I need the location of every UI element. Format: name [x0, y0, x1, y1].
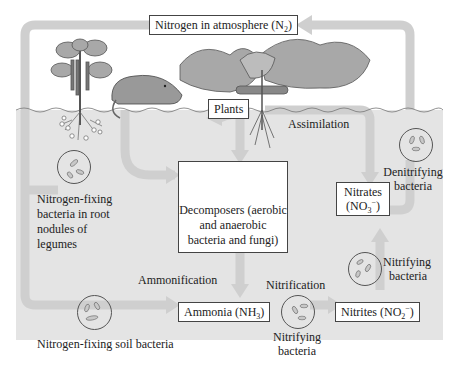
nitrates-box: Nitrates (NO3−): [336, 182, 390, 216]
nitrates-formula: (NO: [346, 199, 367, 213]
atmosphere-suffix: ): [288, 18, 292, 32]
nitrifying-bacteria-bubble-bottom: [281, 295, 315, 329]
denitrifying-bacteria-bubble: [399, 128, 433, 162]
legume-bacteria-bubble: [57, 150, 91, 184]
decomposers-line-3: bacteria and fungi): [179, 233, 287, 248]
ammonia-box: Ammonia (NH3): [178, 302, 270, 322]
ammonification-label: Ammonification: [138, 273, 217, 287]
ammonia-suffix: ): [260, 305, 264, 319]
nitrites-box: Nitrites (NO2−): [335, 302, 420, 322]
nitrifying-bacteria-bubble-right: [348, 252, 382, 286]
nitrifying-bottom-label: Nitrifying bacteria: [268, 330, 326, 358]
denitrifying-line-2: bacteria: [381, 179, 445, 193]
atmosphere-text: Nitrogen in atmosphere (N: [155, 18, 284, 32]
nitrates-subscript: 3: [367, 206, 371, 215]
plants-text: Plants: [214, 102, 243, 116]
nitrogen-cycle-diagram: Nitrogen in atmosphere (N2) Plants Assim…: [0, 0, 454, 372]
nitrites-subscript: 2: [401, 312, 405, 321]
nitrates-line-1: Nitrates: [342, 185, 384, 199]
ammonia-text: Ammonia (NH: [184, 305, 256, 319]
legume-line-3: nodules of: [37, 222, 112, 237]
animal-to-decomposer-arrow: [125, 110, 175, 175]
decomposers-box: Decomposers (aerobic and anaerobic bacte…: [178, 161, 288, 253]
plants-label: Plants: [208, 99, 249, 119]
nitrifying-right-line-1: Nitrifying: [383, 255, 431, 269]
soil-bacteria-bubble: [77, 295, 112, 330]
legume-line-1: Nitrogen-fixing: [37, 192, 112, 207]
denitrifying-label: Denitrifying bacteria: [381, 165, 445, 193]
nitrites-suffix: ): [410, 305, 414, 319]
legume-bacteria-label: Nitrogen-fixing bacteria in root nodules…: [37, 192, 112, 252]
nitrites-text: Nitrites (NO: [341, 305, 401, 319]
squash-plant-icon: [180, 39, 370, 148]
denitrifying-line-1: Denitrifying: [381, 165, 445, 179]
decomposers-line-1: Decomposers (aerobic: [179, 203, 287, 218]
nitrifying-bottom-line-1: Nitrifying: [268, 330, 326, 344]
assimilation-label: Assimilation: [288, 117, 349, 131]
legume-line-4: legumes: [37, 237, 112, 252]
decomposers-line-2: and anaerobic: [179, 218, 287, 233]
nitrifying-right-line-2: bacteria: [383, 269, 431, 283]
atmosphere-label: Nitrogen in atmosphere (N2): [149, 15, 298, 35]
decomposers-label: Decomposers (aerobic and anaerobic bacte…: [179, 203, 287, 248]
nitrifying-bottom-line-2: bacteria: [268, 344, 326, 358]
nitrates-suffix: ): [376, 199, 380, 213]
soil-bacteria-label: Nitrogen-fixing soil bacteria: [37, 337, 174, 351]
nitrifying-right-label: Nitrifying bacteria: [383, 255, 431, 283]
nitrification-label: Nitrification: [266, 278, 325, 292]
legume-line-2: bacteria in root: [37, 207, 112, 222]
